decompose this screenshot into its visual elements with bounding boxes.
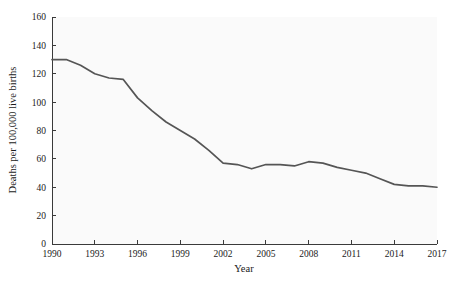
x-tick-label: 1999 (171, 249, 190, 259)
line-chart: 020406080100120140160 199019931996199920… (0, 0, 467, 282)
x-axis-title: Year (234, 263, 254, 274)
x-tick-label: 1996 (128, 249, 147, 259)
y-tick-label: 80 (37, 126, 47, 136)
x-tick-label: 2008 (299, 249, 318, 259)
x-tick-label: 2014 (385, 249, 404, 259)
y-tick-label: 120 (32, 69, 47, 79)
x-tick-label: 2017 (428, 249, 447, 259)
x-tick-label: 1993 (85, 249, 104, 259)
y-axis-title: Deaths per 100,000 live births (7, 67, 18, 194)
y-tick-label: 40 (37, 183, 47, 193)
y-tick-label: 140 (32, 41, 47, 51)
plot-background (52, 17, 437, 244)
x-tick-label: 2005 (256, 249, 275, 259)
chart-figure: 020406080100120140160 199019931996199920… (0, 0, 467, 282)
y-tick-label: 160 (32, 12, 47, 22)
x-tick-label: 2002 (214, 249, 233, 259)
y-tick-label: 60 (37, 154, 47, 164)
x-tick-label: 2011 (342, 249, 361, 259)
y-tick-label: 20 (37, 211, 47, 221)
x-tick-label: 1990 (43, 249, 62, 259)
y-tick-label: 0 (41, 239, 46, 249)
y-tick-label: 100 (32, 98, 47, 108)
